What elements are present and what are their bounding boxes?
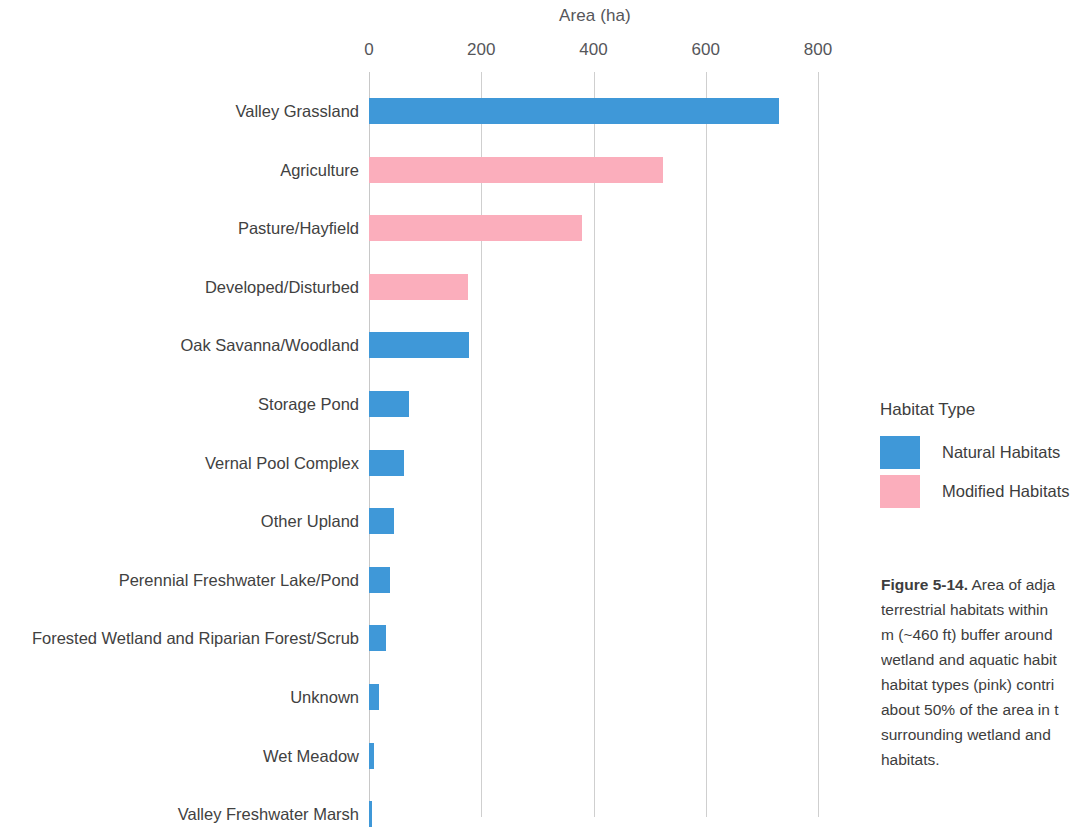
legend-label-modified: Modified Habitats xyxy=(942,482,1069,501)
x-axis-tick-labels: 0200400600800 xyxy=(0,40,860,64)
bar-other-upland xyxy=(369,508,394,534)
plot-area xyxy=(0,72,860,817)
caption-line: wetland and aquatic habit xyxy=(881,647,1074,672)
figure-number: Figure 5-14. xyxy=(881,576,968,593)
legend-title: Habitat Type xyxy=(880,400,1061,420)
bar-row xyxy=(0,743,860,769)
bar-row xyxy=(0,567,860,593)
bar-row xyxy=(0,98,860,124)
bar-developed-disturbed xyxy=(369,274,468,300)
bar-oak-savanna-woodland xyxy=(369,332,469,358)
bar-row xyxy=(0,684,860,710)
bar-storage-pond xyxy=(369,391,409,417)
bar-pasture-hayfield xyxy=(369,215,582,241)
legend-label-natural: Natural Habitats xyxy=(942,443,1060,462)
legend-item-natural: Natural Habitats xyxy=(880,436,1061,469)
bar-valley-freshwater-marsh xyxy=(369,801,372,827)
figure-caption: Figure 5-14. Area of adjaterrestrial hab… xyxy=(881,572,1074,772)
caption-line: surrounding wetland and xyxy=(881,722,1074,747)
bar-row xyxy=(0,508,860,534)
bar-vernal-pool-complex xyxy=(369,450,404,476)
x-tick-label-800: 800 xyxy=(804,40,832,60)
caption-line: terrestrial habitats within xyxy=(881,597,1074,622)
bar-row xyxy=(0,332,860,358)
legend-swatch-modified-icon xyxy=(880,475,920,508)
x-tick-label-200: 200 xyxy=(467,40,495,60)
bar-row xyxy=(0,215,860,241)
bar-row xyxy=(0,391,860,417)
caption-line: Figure 5-14. Area of adja xyxy=(881,572,1074,597)
caption-line: about 50% of the area in t xyxy=(881,697,1074,722)
caption-line: m (~460 ft) buffer around xyxy=(881,622,1074,647)
x-tick-label-400: 400 xyxy=(579,40,607,60)
bar-valley-grassland xyxy=(369,98,779,124)
bar-row xyxy=(0,157,860,183)
x-tick-label-0: 0 xyxy=(364,40,373,60)
x-tick-label-600: 600 xyxy=(692,40,720,60)
legend-swatch-natural-icon xyxy=(880,436,920,469)
caption-line: habitats. xyxy=(881,747,1074,772)
bar-row xyxy=(0,625,860,651)
bar-agriculture xyxy=(369,157,663,183)
bar-row xyxy=(0,274,860,300)
x-axis-title: Area (ha) xyxy=(495,6,695,26)
caption-line: habitat types (pink) contri xyxy=(881,672,1074,697)
bar-row xyxy=(0,450,860,476)
bar-wet-meadow xyxy=(369,743,374,769)
bar-chart: Area (ha) 0200400600800 Valley Grassland… xyxy=(0,0,860,817)
legend-item-modified: Modified Habitats xyxy=(880,475,1061,508)
bar-row xyxy=(0,801,860,827)
legend: Habitat Type Natural Habitats Modified H… xyxy=(880,400,1061,514)
bar-perennial-freshwater-lake-pond xyxy=(369,567,390,593)
bar-unknown xyxy=(369,684,379,710)
bar-forested-wetland-and-riparian-forest-scrub xyxy=(369,625,386,651)
